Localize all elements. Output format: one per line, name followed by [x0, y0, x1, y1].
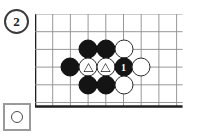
go-board[interactable]: 1 [35, 14, 198, 127]
white-stone[interactable] [96, 58, 115, 77]
white-stone[interactable] [114, 75, 133, 94]
go-problem-diagram: 2 1 [0, 0, 200, 137]
diagram-number-badge: 2 [4, 9, 29, 34]
legend-box [3, 103, 31, 131]
diagram-number-label: 2 [13, 15, 20, 28]
triangle-mark-inner [102, 64, 110, 71]
white-stone-icon [11, 111, 23, 123]
black-stone[interactable] [96, 75, 115, 94]
triangle-mark-inner [84, 64, 92, 71]
black-stone[interactable] [96, 40, 115, 59]
black-stone[interactable] [61, 58, 80, 77]
black-stone[interactable] [79, 40, 98, 59]
white-stone[interactable] [132, 58, 151, 77]
black-stone[interactable]: 1 [114, 58, 133, 77]
white-stone[interactable] [114, 40, 133, 59]
black-stone[interactable] [79, 75, 98, 94]
move-number-label: 1 [121, 62, 126, 72]
white-stone[interactable] [79, 58, 98, 77]
